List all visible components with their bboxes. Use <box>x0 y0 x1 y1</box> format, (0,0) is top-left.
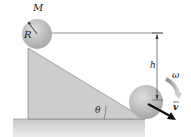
incline-diagram: M R h θ ω v <box>0 0 191 137</box>
angular-velocity-arrow-icon <box>166 79 178 94</box>
ground <box>13 119 145 137</box>
label-velocity: v <box>173 102 179 112</box>
sphere-bottom <box>129 85 163 119</box>
label-mass: M <box>32 2 44 13</box>
incline <box>28 48 145 119</box>
label-angle: θ <box>95 105 101 115</box>
label-radius: R <box>23 29 32 40</box>
label-omega: ω <box>172 70 180 80</box>
label-height: h <box>150 60 156 70</box>
